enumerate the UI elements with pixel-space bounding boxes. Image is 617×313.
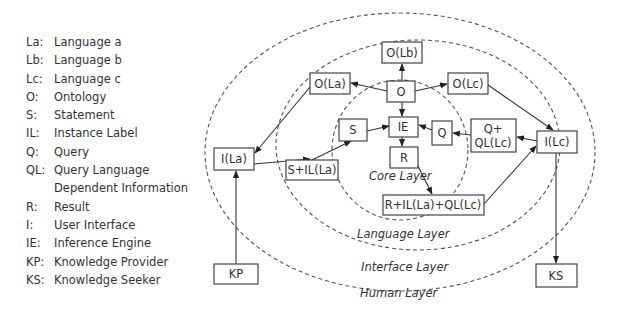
node-label: KS: [549, 269, 564, 283]
core-layer-label: Core Layer: [369, 169, 433, 183]
node-q: Q: [432, 121, 452, 145]
human-layer-label: Human Layer: [360, 286, 438, 300]
node-r: R: [390, 147, 418, 168]
edge-s-to-ie: [367, 126, 389, 131]
layer-diagram: O(Lb) O(La) O O(Lc) I(La) S IE Q Q+ QL(L…: [0, 0, 617, 313]
edge-o-to-olc: [415, 84, 447, 91]
node-s-il-la: S+IL(La): [286, 160, 338, 180]
language-layer-label: Language Layer: [357, 227, 451, 241]
node-label: R: [400, 151, 408, 165]
node-label: S+IL(La): [287, 163, 336, 177]
node-label: KP: [229, 267, 244, 281]
edge-q-to-ie: [419, 125, 432, 130]
edge-ola-to-ila: [255, 87, 310, 153]
node-label: I(La): [221, 152, 247, 166]
node-i-lc: I(Lc): [537, 131, 577, 153]
node-label: Q: [437, 126, 446, 140]
node-q-ql-lc: Q+ QL(Lc): [471, 119, 516, 152]
edge-qql-to-q: [453, 133, 471, 135]
node-o-lb: O(Lb): [382, 42, 422, 63]
node-label: I(Lc): [544, 135, 569, 149]
node-o-lc: O(Lc): [448, 73, 488, 94]
node-s: S: [339, 119, 367, 141]
edge-o-to-ola: [351, 83, 387, 91]
node-r-il-la-ql-lc: R+IL(La)+QL(Lc): [383, 195, 484, 215]
language-layer-boundary: [276, 40, 560, 250]
node-label: R+IL(La)+QL(Lc): [385, 198, 482, 212]
node-label: S: [349, 123, 356, 137]
node-o: O: [387, 81, 415, 102]
node-i-la: I(La): [214, 148, 254, 170]
interface-layer-label: Interface Layer: [361, 260, 449, 274]
edge-sil-to-s: [312, 141, 351, 160]
node-label: QL(Lc): [474, 136, 511, 150]
node-o-la: O(La): [310, 73, 350, 94]
node-label: O(Lc): [453, 77, 484, 91]
node-ks: KS: [536, 264, 577, 287]
node-label: O(Lb): [386, 46, 418, 60]
node-label: Q+: [484, 122, 503, 136]
node-kp: KP: [214, 264, 258, 284]
node-ie: IE: [389, 117, 418, 137]
node-label: O: [396, 85, 405, 99]
edge-ilc-to-qql: [517, 137, 537, 141]
edge-ril-to-ilc: [484, 146, 536, 204]
node-label: IE: [398, 120, 409, 134]
node-label: O(La): [314, 77, 345, 91]
